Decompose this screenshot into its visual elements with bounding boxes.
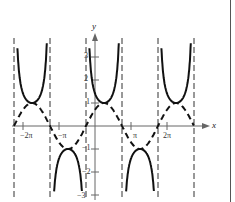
x-tick-label-negpi: −π bbox=[58, 132, 67, 140]
plot-area bbox=[0, 0, 235, 202]
y-tick-label-neg1: −1 bbox=[82, 144, 91, 152]
y-tick-label-3: 3 bbox=[84, 52, 88, 60]
asymptote-lines bbox=[14, 38, 194, 200]
y-axis-label: y bbox=[92, 22, 96, 31]
x-tick-label-neg2pi: −2π bbox=[20, 132, 33, 140]
y-tick-label-neg2: −2 bbox=[82, 168, 91, 176]
cosecant-curves bbox=[17, 43, 190, 191]
y-tick-label-1: 1 bbox=[86, 98, 90, 106]
y-tick-label-neg3: −3 bbox=[77, 192, 86, 200]
page-border bbox=[230, 0, 231, 202]
y-tick-label-2: 2 bbox=[84, 75, 88, 83]
x-tick-label-pi: π bbox=[133, 132, 137, 140]
x-tick-label-2pi: 2π bbox=[163, 132, 171, 140]
x-axis-label: x bbox=[212, 121, 216, 130]
axes bbox=[12, 33, 210, 200]
